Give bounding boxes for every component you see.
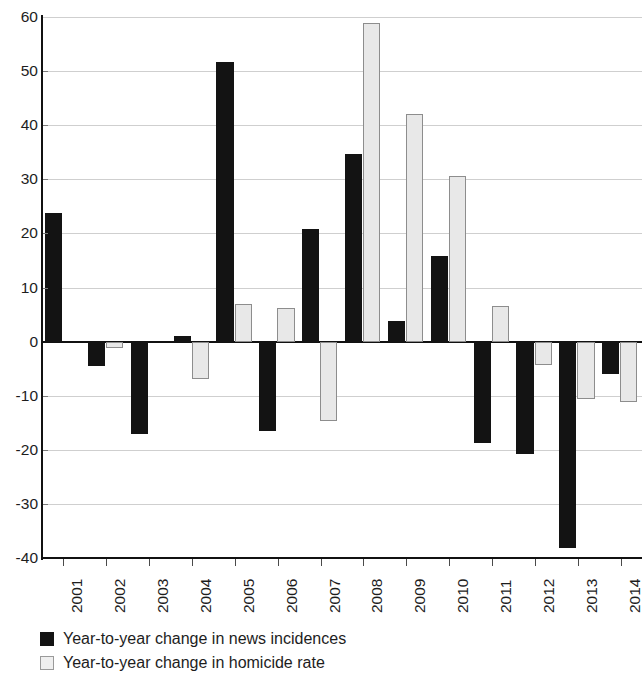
x-axis-tick-mark	[235, 559, 236, 566]
bar-homicide-2014	[620, 342, 637, 403]
x-axis-tick-mark	[63, 559, 64, 566]
bar-news-2006	[259, 342, 276, 431]
y-axis-tick-mark	[43, 504, 48, 505]
x-axis-tick-label: 2014	[627, 553, 642, 613]
bar-news-2008	[345, 154, 362, 341]
y-axis-tick-label: 0	[0, 334, 38, 350]
x-axis-tick-mark	[363, 559, 364, 566]
x-axis-tick-mark	[578, 559, 579, 566]
gridline	[42, 233, 642, 234]
x-axis-tick-mark	[278, 559, 279, 566]
x-axis-tick-mark	[449, 559, 450, 566]
bar-homicide-2004	[192, 342, 209, 380]
bar-news-2010	[431, 256, 448, 341]
bar-homicide-2013	[577, 342, 594, 399]
y-axis-line	[41, 15, 43, 560]
bar-news-2002	[88, 342, 105, 367]
bar-news-2014	[602, 342, 619, 374]
x-axis-tick-mark	[192, 559, 193, 566]
x-axis-tick-label: 2007	[327, 553, 343, 613]
x-axis-tick-mark	[406, 559, 407, 566]
x-axis-tick-label: 2009	[412, 553, 428, 613]
x-axis-tick-label: 2003	[155, 553, 171, 613]
bar-homicide-2012	[535, 342, 552, 365]
y-axis-tick-label: 60	[0, 9, 38, 25]
y-axis-tick-mark	[43, 71, 48, 72]
legend-swatch-homicide-icon	[40, 656, 54, 670]
x-axis-tick-mark	[535, 559, 536, 566]
x-axis-tick-label: 2006	[284, 553, 300, 613]
gridline	[42, 288, 642, 289]
bar-news-2004	[174, 336, 191, 341]
bar-news-2003	[131, 342, 148, 434]
bar-homicide-2002	[106, 342, 123, 348]
x-axis-tick-label: 2012	[541, 553, 557, 613]
y-axis-tick-mark	[43, 179, 48, 180]
gridline	[42, 504, 642, 505]
x-axis-tick-label: 2005	[241, 553, 257, 613]
legend-item-news: Year-to-year change in news incidences	[40, 627, 346, 651]
bar-homicide-2005	[235, 304, 252, 342]
legend-item-homicide: Year-to-year change in homicide rate	[40, 651, 346, 675]
bar-homicide-2007	[320, 342, 337, 421]
x-axis-tick-mark	[492, 559, 493, 566]
y-axis-tick-label: 30	[0, 171, 38, 187]
bar-news-2009	[388, 321, 405, 342]
x-axis-tick-label: 2002	[112, 553, 128, 613]
y-axis-tick-label: 50	[0, 63, 38, 79]
x-axis-tick-label: 2004	[198, 553, 214, 613]
y-axis-tick-mark	[43, 396, 48, 397]
bar-news-2012	[516, 342, 533, 455]
bar-homicide-2006	[277, 308, 294, 342]
bar-homicide-2009	[406, 114, 423, 341]
x-axis-tick-label: 2011	[498, 553, 514, 613]
x-axis-tick-mark	[621, 559, 622, 566]
bar-news-2005	[216, 62, 233, 342]
legend-label-homicide: Year-to-year change in homicide rate	[63, 654, 325, 672]
x-axis-tick-mark	[106, 559, 107, 566]
legend-swatch-news-icon	[40, 632, 54, 646]
gridline	[42, 71, 642, 72]
bar-chart: 6050403020100-10-20-30-40 20012002200320…	[0, 0, 642, 677]
bar-homicide-2010	[449, 176, 466, 342]
y-axis-tick-mark	[43, 450, 48, 451]
bar-news-2007	[302, 229, 319, 342]
bar-news-2013	[559, 342, 576, 548]
y-axis-tick-label: 10	[0, 280, 38, 296]
y-axis-tick-label: -20	[0, 442, 38, 458]
y-axis-tick-label: -30	[0, 496, 38, 512]
y-axis-tick-label: 40	[0, 117, 38, 133]
bar-news-2011	[474, 342, 491, 444]
x-axis-tick-label: 2013	[584, 553, 600, 613]
gridline	[42, 179, 642, 180]
x-axis-tick-label: 2008	[369, 553, 385, 613]
y-axis-tick-mark	[43, 233, 48, 234]
legend: Year-to-year change in news incidences Y…	[40, 627, 346, 675]
bar-homicide-2008	[363, 23, 380, 341]
y-axis-tick-mark	[43, 288, 48, 289]
bar-homicide-2011	[492, 306, 509, 342]
x-axis-tick-label: 2010	[455, 553, 471, 613]
x-axis-tick-mark	[149, 559, 150, 566]
y-axis-tick-label: -10	[0, 388, 38, 404]
gridline	[42, 17, 642, 18]
plot-area	[42, 17, 642, 558]
x-axis-tick-label: 2001	[69, 553, 85, 613]
y-axis-tick-label: 20	[0, 225, 38, 241]
y-axis-tick-mark	[43, 125, 48, 126]
gridline	[42, 125, 642, 126]
y-axis-tick-label: -40	[0, 550, 38, 566]
x-axis-tick-mark	[321, 559, 322, 566]
legend-label-news: Year-to-year change in news incidences	[63, 630, 346, 648]
gridline	[42, 450, 642, 451]
